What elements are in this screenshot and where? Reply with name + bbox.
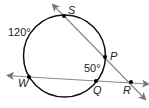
label-P: P [110, 50, 118, 62]
label-S: S [68, 4, 76, 16]
point-S [62, 14, 66, 18]
point-P [103, 55, 107, 59]
arc-measure-PQ: 50° [84, 62, 101, 74]
label-Q: Q [93, 84, 102, 96]
geometry-diagram: S P Q W R 120° 50° [0, 0, 149, 108]
arc-measure-SW: 120° [8, 26, 31, 38]
point-Q [94, 79, 98, 83]
label-R: R [123, 84, 131, 96]
label-W: W [18, 77, 30, 89]
